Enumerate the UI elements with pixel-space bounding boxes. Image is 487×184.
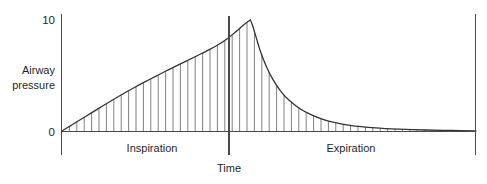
y-axis-title-line2: pressure <box>12 79 55 91</box>
y-tick-label-top: 10 <box>42 14 55 26</box>
hatching-group <box>69 22 446 131</box>
chart-svg: 10 0 Airway pressure Inspiration Expirat… <box>0 0 487 184</box>
inspiration-phase-label: Inspiration <box>127 142 178 154</box>
y-axis-title-line1: Airway <box>22 64 56 76</box>
x-axis-title: Time <box>217 162 241 174</box>
airway-pressure-chart: 10 0 Airway pressure Inspiration Expirat… <box>0 0 487 184</box>
expiration-phase-label: Expiration <box>327 142 376 154</box>
y-tick-label-bottom: 0 <box>49 126 55 138</box>
